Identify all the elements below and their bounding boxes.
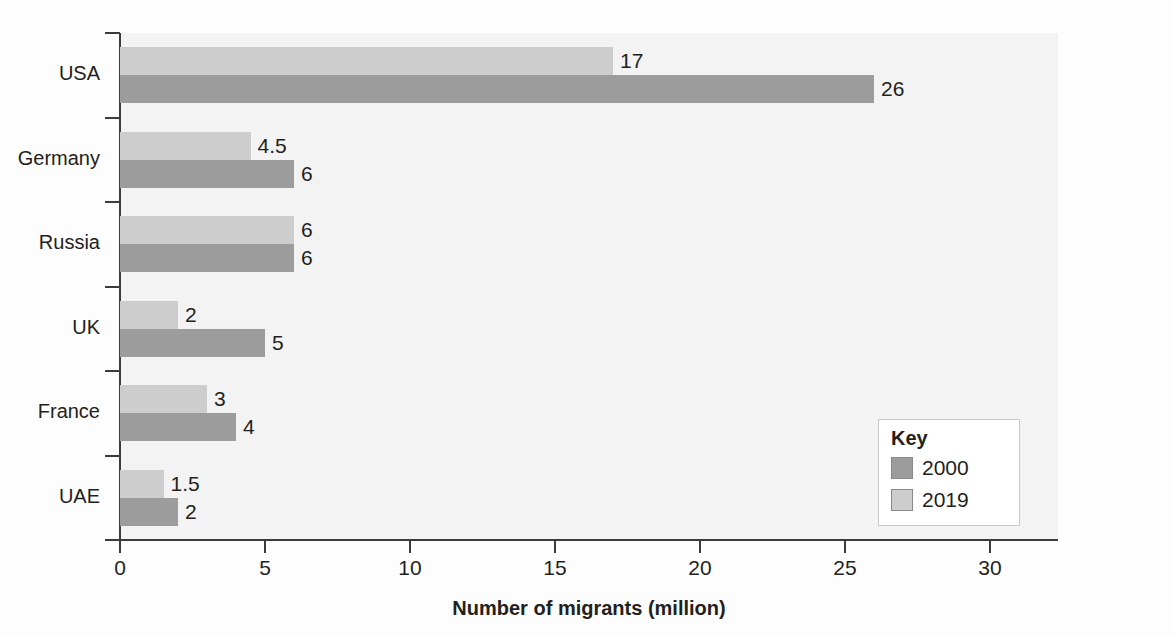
bar-value-label: 2 [185, 498, 197, 526]
bar-value-label: 17 [620, 47, 643, 75]
bar-uk-2019 [120, 301, 178, 329]
x-axis-tick-label: 10 [380, 556, 440, 580]
legend-swatch-2019 [891, 489, 913, 511]
y-axis-tick [105, 286, 120, 288]
bar-value-label: 26 [881, 75, 904, 103]
bar-value-label: 6 [301, 244, 313, 272]
y-axis-category-label: UAE [0, 485, 100, 508]
bar-france-2019 [120, 385, 207, 413]
bar-value-label: 6 [301, 216, 313, 244]
x-axis-tick-label: 0 [90, 556, 150, 580]
x-axis-line [119, 539, 1058, 541]
y-axis-category-label: UK [0, 316, 100, 339]
legend-title: Key [891, 426, 1019, 450]
y-axis-tick [105, 539, 120, 541]
legend-label-2000: 2000 [922, 457, 969, 479]
legend-label-2019: 2019 [922, 489, 969, 511]
bar-usa-2000 [120, 75, 874, 103]
y-axis-tick [105, 370, 120, 372]
y-axis-tick [105, 117, 120, 119]
x-axis-tick-label: 15 [525, 556, 585, 580]
bar-value-label: 4.5 [258, 132, 287, 160]
bar-uae-2000 [120, 498, 178, 526]
bar-uae-2019 [120, 470, 164, 498]
bar-germany-2000 [120, 160, 294, 188]
bar-value-label: 5 [272, 329, 284, 357]
chart-legend: Key 2000 2019 [878, 419, 1020, 526]
x-axis-tick [554, 541, 556, 553]
x-axis-tick-label: 5 [235, 556, 295, 580]
legend-item-2000: 2000 [891, 452, 1019, 484]
x-axis-tick [409, 541, 411, 553]
bar-russia-2000 [120, 244, 294, 272]
bar-value-label: 6 [301, 160, 313, 188]
x-axis-tick [699, 541, 701, 553]
y-axis-tick [105, 32, 120, 34]
y-axis-category-label: France [0, 400, 100, 423]
bar-value-label: 2 [185, 301, 197, 329]
y-axis-category-label: Germany [0, 147, 100, 170]
bar-value-label: 4 [243, 413, 255, 441]
y-axis-tick [105, 201, 120, 203]
x-axis-title: Number of migrants (million) [120, 597, 1058, 620]
x-axis-tick [264, 541, 266, 553]
x-axis-tick [844, 541, 846, 553]
y-axis-tick [105, 455, 120, 457]
x-axis-tick [989, 541, 991, 553]
bar-russia-2019 [120, 216, 294, 244]
legend-swatch-2000 [891, 457, 913, 479]
bar-value-label: 1.5 [171, 470, 200, 498]
x-axis-tick-label: 20 [670, 556, 730, 580]
bar-value-label: 3 [214, 385, 226, 413]
bar-france-2000 [120, 413, 236, 441]
legend-item-2019: 2019 [891, 484, 1019, 516]
y-axis-category-label: USA [0, 62, 100, 85]
bar-germany-2019 [120, 132, 251, 160]
x-axis-tick-label: 25 [815, 556, 875, 580]
bar-usa-2019 [120, 47, 613, 75]
x-axis-tick [119, 541, 121, 553]
bar-uk-2000 [120, 329, 265, 357]
x-axis-tick-label: 30 [960, 556, 1020, 580]
y-axis-category-label: Russia [0, 231, 100, 254]
bar-chart: USAGermanyRussiaUKFranceUAE 17264.566625… [0, 0, 1174, 636]
